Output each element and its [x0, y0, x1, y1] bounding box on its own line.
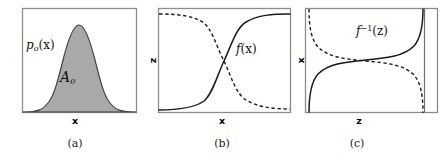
panel-c: f−1(z) x z (c): [296, 0, 446, 156]
density-label: po(x): [26, 38, 55, 53]
density-label-main: p: [26, 38, 34, 52]
sigmoid-label-arg: (x): [240, 42, 256, 56]
area-label-main: A: [60, 69, 70, 85]
three-panel-figure: po(x) A0 x (a) f(x) z x (b): [0, 0, 446, 156]
panel-b-xaxis-label: x: [146, 115, 298, 126]
inverse-sigmoid-label: f−1(z): [356, 24, 388, 38]
area-label-sub: 0: [70, 77, 75, 86]
panel-b-plot: [146, 0, 298, 156]
inverse-label-sup: −1: [360, 24, 372, 33]
panel-c-caption: (c): [282, 137, 432, 150]
panel-a-caption: (a): [0, 137, 150, 150]
panel-a: po(x) A0 x (a): [0, 0, 150, 156]
area-label: A0: [60, 69, 75, 86]
panel-b-caption: (b): [146, 137, 298, 150]
sigmoid-label: f(x): [236, 42, 257, 56]
panel-b: f(x) z x (b): [146, 0, 298, 156]
panel-b-yaxis-label: z: [147, 51, 158, 71]
panel-c-xaxis-label: z: [284, 115, 434, 126]
density-label-arg: (x): [39, 38, 55, 52]
panel-c-yaxis-label: x: [295, 51, 306, 71]
inverse-label-arg: (z): [372, 24, 388, 38]
panel-a-xaxis-label: x: [0, 115, 150, 126]
